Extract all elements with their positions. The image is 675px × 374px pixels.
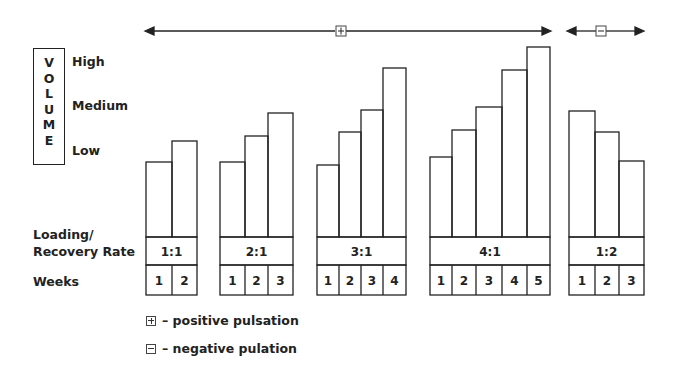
legend-negative-text: – negative pulation [162, 341, 297, 356]
week-cell: 4 [510, 274, 518, 288]
week-cell: 2 [180, 274, 188, 288]
rate-label: 1:2 [596, 245, 618, 259]
plus-box-icon [146, 316, 156, 326]
group-2-1 [220, 113, 293, 295]
group-3-1 [317, 68, 406, 295]
group-1-1 [146, 141, 197, 295]
week-cell: 2 [603, 274, 611, 288]
week-cell: 3 [627, 274, 635, 288]
week-cell: 5 [534, 274, 542, 288]
week-cell: 1 [578, 274, 586, 288]
week-cell: 1 [228, 274, 236, 288]
week-cell: 3 [368, 274, 376, 288]
group-1-2 [569, 111, 644, 295]
rate-label: 4:1 [479, 245, 501, 259]
legend-positive-text: – positive pulsation [162, 313, 299, 328]
positive-phase-arrow [145, 26, 551, 36]
rate-label: 3:1 [351, 245, 373, 259]
week-cell: 3 [276, 274, 284, 288]
negative-phase-arrow [567, 26, 644, 36]
minus-box-icon [146, 344, 156, 354]
week-cell: 1 [155, 274, 163, 288]
week-cell: 3 [485, 274, 493, 288]
week-cell: 1 [324, 274, 332, 288]
week-cell: 4 [390, 274, 398, 288]
rate-label: 2:1 [246, 245, 268, 259]
legend-positive: – positive pulsation [146, 313, 299, 328]
legend-negative: – negative pulation [146, 341, 297, 356]
week-cell: 2 [346, 274, 354, 288]
week-cell: 1 [437, 274, 445, 288]
week-cell: 2 [460, 274, 468, 288]
rate-label: 1:1 [161, 245, 183, 259]
pulsation-diagram: 1:1 2:1 3:1 4:1 1:2 1 2 1 2 3 1 2 3 4 1 … [0, 0, 675, 374]
week-cell: 2 [252, 274, 260, 288]
